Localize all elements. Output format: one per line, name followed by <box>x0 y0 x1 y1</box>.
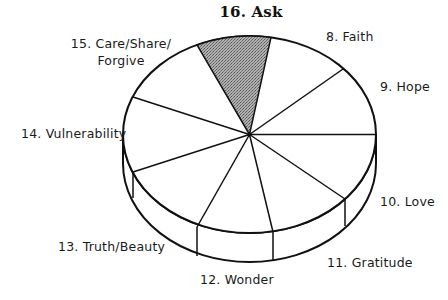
label-ask: 16. Ask <box>206 4 296 21</box>
label-wonder: 12. Wonder <box>200 271 274 288</box>
label-faith: 8. Faith <box>326 28 374 45</box>
center-point <box>248 133 252 137</box>
label-vulnerability: 14. Vulnerability <box>21 125 126 142</box>
label-care-share-forgive: 15. Care/Share/ Forgive <box>66 35 176 69</box>
label-gratitude: 11. Gratitude <box>327 254 413 271</box>
label-hope: 9. Hope <box>380 78 430 95</box>
label-truth-beauty: 13. Truth/Beauty <box>58 238 165 255</box>
label-love: 10. Love <box>380 193 435 210</box>
label-care-line2: Forgive <box>66 52 176 69</box>
label-care-line1: 15. Care/Share/ <box>66 35 176 52</box>
